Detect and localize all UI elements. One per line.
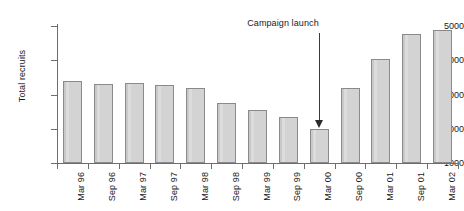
- y-axis-title: Total recruits: [17, 21, 27, 131]
- bar: [155, 85, 174, 163]
- bar: [433, 30, 452, 163]
- bar: [248, 110, 267, 163]
- x-axis-tick-label: Mar 96: [76, 172, 86, 201]
- bar: [217, 103, 236, 163]
- x-axis-tick: [88, 164, 89, 169]
- campaign-launch-annotation-label: Campaign launch: [247, 18, 319, 28]
- x-axis-tick: [335, 164, 336, 169]
- bar: [125, 83, 144, 163]
- bar-chart-figure: Total recruits 10002000300040005000 Mar …: [0, 0, 464, 211]
- x-axis-tick: [396, 164, 397, 169]
- campaign-launch-arrow-line: [319, 33, 320, 121]
- x-axis-tick-label: Sep 96: [107, 172, 117, 201]
- x-axis-tick-label: Mar 00: [323, 172, 333, 201]
- x-axis-tick-label: Sep 00: [354, 172, 364, 201]
- x-axis-tick: [273, 164, 274, 169]
- x-axis-tick-label: Sep 98: [231, 172, 241, 201]
- bar: [341, 88, 360, 163]
- bar: [279, 117, 298, 163]
- x-axis-tick: [119, 164, 120, 169]
- bar: [63, 81, 82, 163]
- bar: [94, 84, 113, 163]
- x-axis-tick-label: Sep 97: [169, 172, 179, 201]
- x-axis-tick: [57, 164, 58, 169]
- x-axis-tick-label: Mar 99: [262, 172, 272, 201]
- x-axis-tick: [427, 164, 428, 169]
- x-axis-tick: [304, 164, 305, 169]
- bar: [371, 59, 390, 163]
- x-axis-tick: [242, 164, 243, 169]
- x-axis-tick: [458, 164, 459, 169]
- x-axis-tick: [211, 164, 212, 169]
- x-axis-tick-label: Sep 01: [416, 172, 426, 201]
- x-axis-tick: [180, 164, 181, 169]
- bar: [186, 88, 205, 163]
- x-axis-tick: [150, 164, 151, 169]
- bar: [402, 34, 421, 163]
- x-axis-tick-label: Mar 01: [385, 172, 395, 201]
- bar: [310, 129, 329, 163]
- x-axis-tick-label: Mar 02: [447, 172, 457, 201]
- x-axis-tick-label: Mar 98: [200, 172, 210, 201]
- x-axis-line: [57, 163, 458, 164]
- x-axis-tick-label: Sep 99: [292, 172, 302, 201]
- x-axis-tick: [365, 164, 366, 169]
- plot-area: [57, 20, 458, 163]
- campaign-launch-arrow-head: [315, 120, 323, 128]
- x-axis-tick-label: Mar 97: [138, 172, 148, 201]
